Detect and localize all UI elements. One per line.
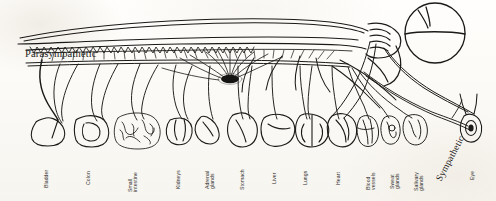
- organ-sweat-glands: [381, 116, 400, 144]
- nerve-fibers-parasympathetic: [40, 60, 58, 120]
- organ-kidneys: [166, 118, 192, 145]
- organ-label-small-intestine: Small intestine: [128, 172, 138, 192]
- organ-adrenal-glands: [195, 116, 219, 144]
- organ-label-sweat-glands: Sweat glands: [390, 173, 400, 189]
- brainstem: [366, 23, 401, 86]
- nerve-fibers-right: [209, 66, 471, 130]
- organ-label-liver: Liver: [272, 172, 277, 184]
- cranial-nerve-curves: [332, 42, 474, 118]
- anatomy-line-art: [0, 0, 496, 201]
- organ-label-colon: Colon: [86, 171, 91, 185]
- organ-label-salivary-glands: Salivary glands: [414, 172, 424, 191]
- figure-canvas: Parasympathetic Sympathetic Bladder Colo…: [0, 0, 496, 201]
- organ-heart: [327, 114, 356, 147]
- organ-label-heart: Heart: [336, 172, 341, 185]
- organ-eye: [460, 94, 482, 142]
- organ-lungs: [296, 114, 329, 147]
- organ-label-stomach: Stomach: [240, 169, 245, 190]
- organ-label-lungs: Lungs: [303, 171, 308, 185]
- organ-label-eye: Eye: [470, 171, 475, 180]
- organ-small-intestine: [114, 113, 160, 149]
- nerve-fibers-left: [54, 64, 192, 123]
- organ-label-adrenal-glands: Adrenal glands: [205, 171, 215, 189]
- organ-colon: [75, 116, 109, 147]
- organ-bladder: [31, 118, 65, 146]
- brain-circle: [405, 3, 465, 63]
- organ-blood-vessels: [357, 116, 379, 147]
- parasympathetic-label: Parasympathetic: [25, 48, 97, 59]
- organ-salivary-glands: [403, 115, 427, 145]
- organ-liver: [261, 114, 295, 146]
- sympathetic-ganglion-chain: [26, 60, 350, 67]
- organ-label-blood-vessels: Blood vessels: [366, 172, 376, 190]
- organ-label-bladder: Bladder: [44, 170, 49, 188]
- spinal-cord: [18, 19, 368, 50]
- organ-label-kidneys: Kidneys: [176, 170, 181, 189]
